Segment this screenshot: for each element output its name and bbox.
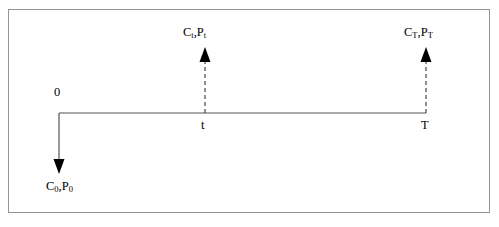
p-0-subscript: 0 [69, 184, 73, 194]
outflow-arrowhead-icon [54, 159, 65, 174]
cashflow-label-T: CT,PT [404, 26, 433, 39]
cashflow-label-zero: C0,P0 [46, 180, 73, 193]
figure-container: Ct,Pt CT,PT C0,P0 0 t T [0, 0, 499, 227]
c-0-subscript: 0 [54, 184, 58, 194]
c-T-subscript: T [412, 30, 417, 40]
tick-label-T: T [421, 119, 429, 132]
p-0-base: P [62, 179, 69, 193]
p-t-subscript: t [204, 30, 206, 40]
c-t-subscript: t [191, 30, 193, 40]
tick-label-t: t [201, 119, 204, 132]
cashflow-label-t: Ct,Pt [183, 26, 206, 39]
p-T-base: P [421, 25, 428, 39]
inflow-t-arrowhead-icon [200, 47, 211, 62]
p-T-subscript: T [428, 30, 433, 40]
origin-label: 0 [54, 86, 60, 99]
inflow-T-arrowhead-icon [421, 47, 432, 62]
p-t-base: P [197, 25, 204, 39]
